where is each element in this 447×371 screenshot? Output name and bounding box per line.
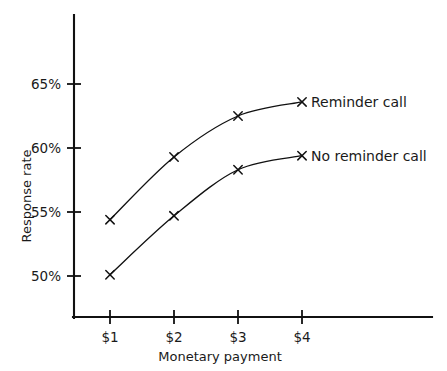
- x-tick-label-3: $3: [229, 329, 246, 345]
- y-tick-label-55: 55%: [31, 204, 61, 220]
- y-axis-title: Response rate: [19, 150, 34, 243]
- series-curve-reminder-call: [110, 102, 302, 220]
- series-markers-no-reminder-call: [106, 151, 306, 278]
- series-markers-reminder-call: [106, 98, 306, 224]
- x-tick-label-1: $1: [101, 329, 118, 345]
- series-curve-no-reminder-call: [110, 156, 302, 275]
- y-tick-label-65: 65%: [31, 76, 61, 92]
- response-rate-line-chart: 65% 60% 55% 50% $1 $2 $3 $4 Monetary pay…: [0, 0, 447, 371]
- y-tick-label-50: 50%: [31, 268, 61, 284]
- chart-plot-area: 65% 60% 55% 50% $1 $2 $3 $4 Monetary pay…: [0, 0, 447, 371]
- series-label-no-reminder-call: No reminder call: [311, 148, 427, 164]
- y-tick-label-60: 60%: [31, 140, 61, 156]
- series-label-reminder-call: Reminder call: [311, 94, 407, 110]
- x-axis-title: Monetary payment: [158, 349, 282, 364]
- x-tick-label-4: $4: [293, 329, 310, 345]
- x-tick-label-2: $2: [165, 329, 182, 345]
